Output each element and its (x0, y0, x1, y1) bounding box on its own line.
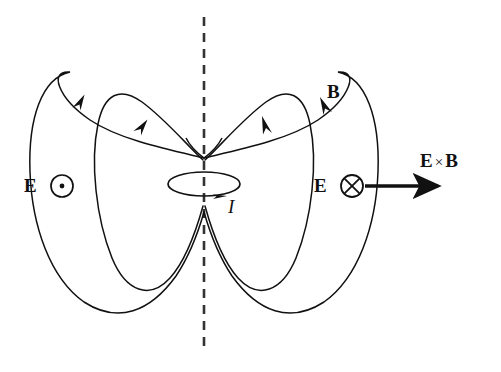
field-line-inner-left (94, 94, 203, 290)
poynting-e: E (420, 150, 433, 171)
label-current: I (228, 197, 234, 216)
figure-root: E E B I E×B (0, 0, 501, 372)
poynting-cross: × (433, 154, 445, 170)
poynting-b: B (445, 150, 458, 171)
magnetic-field-diagram (0, 0, 501, 372)
circle-dot-icon (51, 175, 73, 197)
label-poynting-vector: E×B (420, 151, 458, 170)
label-e-right: E (314, 176, 327, 195)
circle-cross-icon (341, 175, 363, 197)
label-e-left: E (24, 176, 37, 195)
field-line-inner-right (205, 94, 314, 290)
label-b-field: B (327, 82, 340, 101)
